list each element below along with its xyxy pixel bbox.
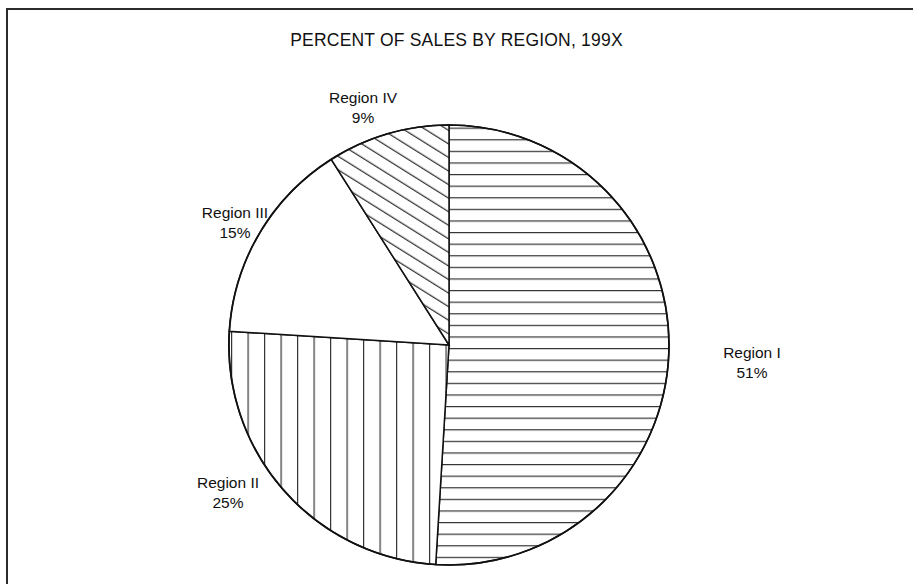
pie-label-region-1-name: Region I bbox=[672, 343, 832, 363]
pie-label-region-1-value: 51% bbox=[672, 363, 832, 383]
pie-label-region-4-value: 9% bbox=[283, 108, 443, 128]
pie-label-region-4-name: Region IV bbox=[283, 88, 443, 108]
pie-label-region-2-value: 25% bbox=[148, 493, 308, 513]
pie-slice-region-2 bbox=[229, 331, 449, 564]
pie-label-region-2: Region II 25% bbox=[148, 473, 308, 513]
figure-container: PERCENT OF SALES BY REGION, 199X bbox=[0, 0, 913, 584]
pie-label-region-1: Region I 51% bbox=[672, 343, 832, 383]
pie-slice-region-1 bbox=[436, 125, 669, 565]
pie-label-region-3-name: Region III bbox=[155, 203, 315, 223]
pie-label-region-3: Region III 15% bbox=[155, 203, 315, 243]
pie-label-region-2-name: Region II bbox=[148, 473, 308, 493]
pie-label-region-3-value: 15% bbox=[155, 223, 315, 243]
pie-chart bbox=[0, 0, 913, 584]
pie-label-region-4: Region IV 9% bbox=[283, 88, 443, 128]
